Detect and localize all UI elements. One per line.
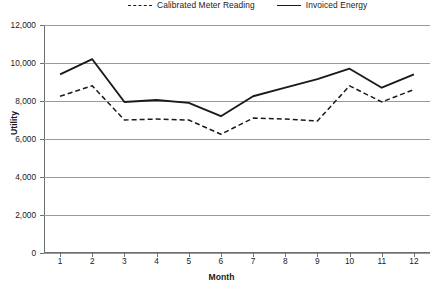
y-tick-mark — [40, 25, 44, 26]
x-tick-label: 7 — [251, 256, 256, 266]
y-tick-mark — [40, 63, 44, 64]
x-tick-mark — [92, 253, 93, 257]
x-tick-label: 8 — [283, 256, 288, 266]
x-tick-mark — [189, 253, 190, 257]
x-tick-label: 12 — [409, 256, 418, 266]
gridline — [44, 139, 430, 140]
x-tick-mark — [414, 253, 415, 257]
legend-label: Calibrated Meter Reading — [157, 1, 255, 9]
x-tick-mark — [382, 253, 383, 257]
x-tick-mark — [350, 253, 351, 257]
x-tick-mark — [60, 253, 61, 257]
gridline — [44, 25, 430, 26]
x-axis-title: Month — [0, 272, 443, 282]
x-tick-mark — [157, 253, 158, 257]
x-tick-label: 6 — [219, 256, 224, 266]
gridline — [44, 253, 430, 254]
legend-label: Invoiced Energy — [306, 1, 368, 9]
x-tick-mark — [221, 253, 222, 257]
x-tick-mark — [285, 253, 286, 257]
gridline — [44, 63, 430, 64]
x-tick-label: 1 — [58, 256, 63, 266]
y-axis-title: Utility — [9, 93, 19, 153]
x-tick-label: 2 — [90, 256, 95, 266]
legend-solid-line-icon — [277, 5, 301, 6]
chart-legend: Calibrated Meter Reading Invoiced Energy — [128, 1, 367, 9]
x-tick-label: 4 — [154, 256, 159, 266]
x-tick-label: 10 — [345, 256, 354, 266]
x-tick-label: 5 — [186, 256, 191, 266]
x-tick-mark — [124, 253, 125, 257]
x-tick-label: 9 — [315, 256, 320, 266]
legend-item-calibrated-meter-reading: Calibrated Meter Reading — [128, 1, 255, 9]
x-axis-tick-labels: 123456789101112 — [44, 256, 430, 270]
x-tick-label: 11 — [377, 256, 386, 266]
x-tick-mark — [253, 253, 254, 257]
y-axis-tick-labels: 02,0004,0006,0008,00010,00012,000 — [0, 25, 40, 253]
y-tick-mark — [40, 139, 44, 140]
y-tick-mark — [40, 215, 44, 216]
y-tick-label: 10,000 — [11, 58, 36, 68]
gridline — [44, 101, 430, 102]
y-tick-label: 4,000 — [15, 172, 36, 182]
y-tick-mark — [40, 101, 44, 102]
y-tick-mark — [40, 177, 44, 178]
gridline — [44, 215, 430, 216]
legend-item-invoiced-energy: Invoiced Energy — [277, 1, 368, 9]
y-tick-label: 0 — [31, 248, 36, 258]
y-tick-label: 2,000 — [15, 210, 36, 220]
gridline — [44, 177, 430, 178]
x-tick-mark — [317, 253, 318, 257]
x-tick-label: 3 — [122, 256, 127, 266]
legend-dashed-line-icon — [128, 5, 152, 6]
y-tick-label: 12,000 — [11, 20, 36, 30]
line-chart: Calibrated Meter Reading Invoiced Energy… — [0, 0, 443, 291]
plot-area — [44, 25, 430, 253]
y-tick-mark — [40, 253, 44, 254]
